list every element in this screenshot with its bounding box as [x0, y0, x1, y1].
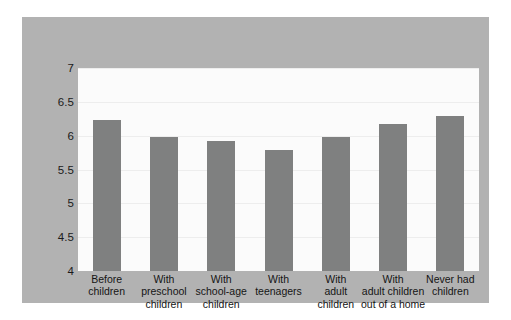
bar-1 [150, 137, 178, 271]
bar-5 [379, 124, 407, 272]
chart-figure: 44.555.566.57 BeforechildrenWithpreschoo… [0, 0, 511, 320]
y-tick-label-6.5: 6.5 [58, 96, 74, 108]
y-tick-label-7: 7 [68, 62, 75, 74]
y-tick-label-5.5: 5.5 [58, 164, 74, 176]
y-axis: 44.555.566.57 [44, 68, 74, 271]
x-axis: BeforechildrenWithpreschoolchildrenWiths… [78, 273, 479, 319]
y-tick-label-6: 6 [68, 130, 75, 142]
bar-series [78, 68, 479, 271]
x-tick-label-6: Never hadchildren [410, 273, 490, 298]
y-tick-label-5: 5 [68, 197, 75, 209]
chart-frame: 44.555.566.57 BeforechildrenWithpreschoo… [22, 17, 489, 303]
bar-2 [207, 141, 235, 271]
bar-3 [265, 150, 293, 271]
bar-4 [322, 137, 350, 271]
bar-0 [93, 120, 121, 271]
y-tick-label-4.5: 4.5 [58, 231, 74, 243]
bar-6 [436, 116, 464, 271]
